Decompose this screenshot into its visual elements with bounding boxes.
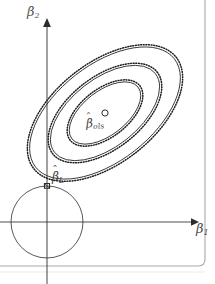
constrained-estimate-subscript: L (59, 176, 64, 185)
contour-ring-outer (3, 18, 207, 208)
x-axis-label-symbol: β (196, 221, 204, 236)
x-axis-label-subscript: 1 (204, 228, 209, 237)
ols-center-marker (102, 110, 108, 116)
x-axis-label: β1 (196, 222, 209, 237)
contour-ring-inner-dotted (55, 67, 154, 159)
ols-estimate-subscript: ols (93, 121, 105, 131)
contour-ring-middle-solid (34, 47, 177, 179)
ols-estimate-label: ˆβols (86, 117, 105, 131)
contour-ring-outer-solid (6, 21, 204, 205)
hat-accent-ols: ˆ (86, 113, 92, 123)
y-axis-label: β2 (27, 5, 40, 20)
diagram-svg (0, 0, 215, 284)
constrained-estimate-label: ˆβL (52, 171, 64, 184)
contour-ring-middle (31, 44, 180, 183)
y-axis-label-subscript: 2 (35, 11, 40, 20)
contour-ring-outer-dotted (3, 18, 207, 208)
contour-ellipses (3, 18, 207, 208)
y-axis-label-symbol: β (27, 4, 35, 19)
y-axis-arrowhead (43, 18, 51, 27)
contour-ring-middle-dotted (31, 44, 180, 183)
hat-accent-l: ˆ (53, 166, 58, 176)
contour-ring-inner (55, 67, 154, 159)
figure-canvas: β2 β1 ˆβols ˆβL (0, 0, 215, 284)
